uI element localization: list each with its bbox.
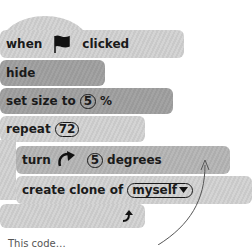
caption-text: This code… — [8, 238, 66, 249]
